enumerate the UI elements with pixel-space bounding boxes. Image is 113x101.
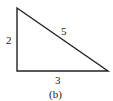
right-triangle <box>17 8 108 71</box>
label-hypotenuse: 5 <box>61 25 67 37</box>
label-vertical-side: 2 <box>6 34 12 46</box>
label-horizontal-side: 3 <box>55 74 61 86</box>
figure-caption: (b) <box>49 88 62 101</box>
triangle-diagram: 2 5 3 (b) <box>0 0 113 101</box>
